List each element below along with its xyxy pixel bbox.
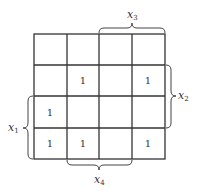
cell-r4c1: 1 [47,138,53,149]
x1-brace-icon [23,96,33,159]
x3-brace-icon [99,23,165,33]
variable-labels: x3 x2 x1 x4 [8,8,189,187]
cell-r3c1: 1 [47,107,53,118]
cell-r2c4: 1 [145,75,151,86]
cell-r4c4: 1 [145,138,151,149]
cell-r4c2: 1 [80,138,86,149]
label-x3: x3 [127,8,138,22]
label-x1: x1 [8,121,19,135]
cell-r2c2: 1 [80,75,86,86]
x4-brace-icon [67,160,132,170]
label-x4: x4 [94,173,105,187]
label-x2: x2 [178,89,189,103]
karnaugh-map: 1 1 1 1 1 1 x3 x2 x1 x4 [0,0,197,191]
x2-brace-icon [166,65,176,128]
